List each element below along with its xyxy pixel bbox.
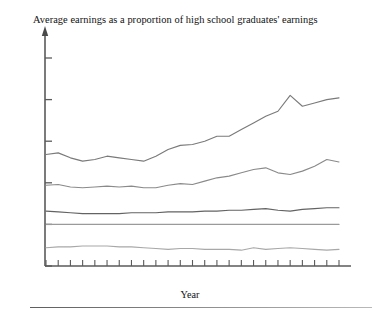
chart-plot-area [0, 0, 377, 319]
chart-container: Average earnings as a proportion of high… [0, 0, 377, 319]
series-line-1 [46, 160, 339, 188]
series-line-0 [46, 95, 339, 161]
series-line-2 [46, 208, 339, 214]
series-line-4 [46, 246, 339, 250]
bottom-divider [30, 307, 372, 308]
y-axis-arrow-icon [42, 26, 48, 36]
x-axis-title: Year [160, 289, 220, 300]
